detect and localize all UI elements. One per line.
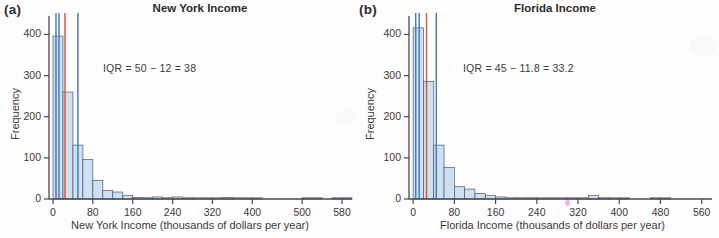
x-tick-label: 500 (282, 206, 322, 218)
y-tick-label: 0 (363, 192, 401, 204)
figure-canvas: (a) New York Income IQR = 50 − 12 = 38 F… (0, 0, 719, 238)
x-tick-label: 160 (476, 206, 516, 218)
x-tick-label: 80 (73, 206, 113, 218)
histogram-plot-a (0, 0, 355, 238)
x-tick-label: 160 (113, 206, 153, 218)
panel-florida-income: (b) Florida Income IQR = 45 − 11.8 = 33.… (355, 0, 719, 238)
panel-new-york-income: (a) New York Income IQR = 50 − 12 = 38 F… (0, 0, 355, 238)
bars-group (53, 36, 352, 199)
y-tick-label: 0 (3, 192, 41, 204)
y-tick-label: 200 (3, 110, 41, 122)
histogram-bar (413, 28, 423, 199)
histogram-bar (53, 36, 63, 199)
x-tick-label: 240 (153, 206, 193, 218)
x-tick-label: 560 (682, 206, 719, 218)
y-tick-label: 100 (363, 151, 401, 163)
histogram-bar (103, 190, 113, 199)
x-tick-label: 480 (640, 206, 680, 218)
histogram-bar (475, 194, 485, 199)
x-tick-label: 0 (33, 206, 73, 218)
y-tick-label: 300 (3, 69, 41, 81)
histogram-bar (434, 145, 444, 199)
x-tick-label: 240 (517, 206, 557, 218)
x-tick-label: 320 (558, 206, 598, 218)
histogram-bar (83, 160, 93, 199)
x-tick-label: 80 (434, 206, 474, 218)
histogram-plot-b (355, 0, 719, 238)
histogram-bar (113, 192, 123, 199)
y-tick-label: 300 (363, 69, 401, 81)
x-tick-label: 400 (599, 206, 639, 218)
y-tick-label: 400 (3, 27, 41, 39)
histogram-bar (454, 187, 464, 199)
y-tick-label: 200 (363, 110, 401, 122)
y-tick-label: 400 (363, 27, 401, 39)
histogram-bar (444, 167, 454, 199)
x-tick-label: 400 (232, 206, 272, 218)
y-tick-label: 100 (3, 151, 41, 163)
histogram-bar (423, 81, 433, 199)
bars-group (413, 28, 671, 199)
x-tick-label: 0 (393, 206, 433, 218)
x-tick-label: 320 (192, 206, 232, 218)
histogram-bar (93, 180, 103, 199)
histogram-bar (465, 189, 475, 199)
